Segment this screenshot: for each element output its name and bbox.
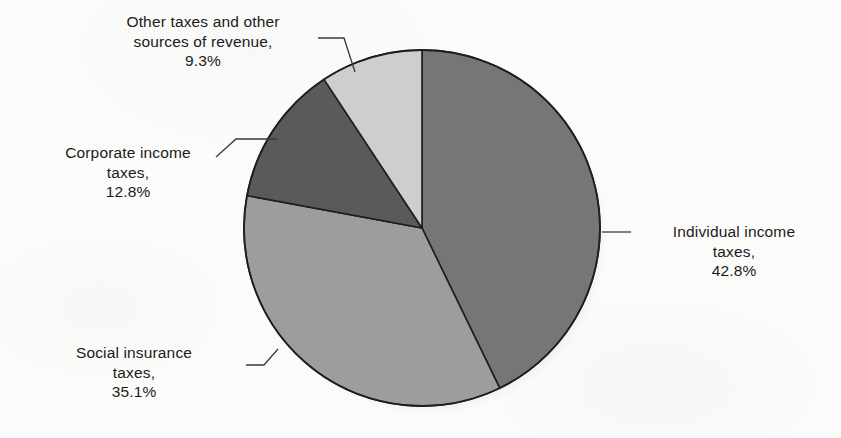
pie-label-other-taxes-line1: Other taxes and other — [78, 12, 328, 32]
chart-page: Other taxes and other sources of revenue… — [0, 0, 841, 438]
pie-label-other-taxes-line2: sources of revenue, — [78, 32, 328, 52]
pie-label-individual-income-taxes: Individual income taxes, 42.8% — [634, 222, 834, 281]
pie-label-individual-income-taxes-value: 42.8% — [634, 261, 834, 281]
pie-label-other-taxes: Other taxes and other sources of revenue… — [78, 12, 328, 71]
pie-label-corporate-income-taxes-line2: taxes, — [18, 163, 238, 183]
pie-label-social-insurance-taxes-line1: Social insurance — [14, 343, 254, 363]
pie-label-corporate-income-taxes: Corporate income taxes, 12.8% — [18, 143, 238, 202]
pie-label-social-insurance-taxes: Social insurance taxes, 35.1% — [14, 343, 254, 402]
pie-label-corporate-income-taxes-line1: Corporate income — [18, 143, 238, 163]
pie-label-corporate-income-taxes-value: 12.8% — [18, 182, 238, 202]
pie-label-social-insurance-taxes-value: 35.1% — [14, 382, 254, 402]
pie-label-other-taxes-value: 9.3% — [78, 51, 328, 71]
pie-label-individual-income-taxes-line1: Individual income — [634, 222, 834, 242]
pie-chart: Other taxes and other sources of revenue… — [0, 0, 841, 438]
pie-label-social-insurance-taxes-line2: taxes, — [14, 363, 254, 383]
pie-label-individual-income-taxes-line2: taxes, — [634, 242, 834, 262]
